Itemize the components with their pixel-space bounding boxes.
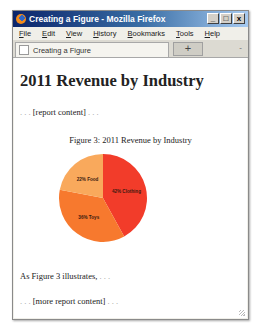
tab-bar: Creating a Figure + - [13, 40, 248, 58]
new-tab-button[interactable]: + [173, 42, 203, 56]
minimize-button[interactable]: _ [207, 13, 219, 24]
page-heading: 2011 Revenue by Industry [20, 71, 204, 91]
pie-label-clothing: 42% Clothing [112, 189, 141, 194]
resize-grip[interactable] [239, 310, 245, 316]
report-content-text: [report content] [33, 107, 86, 117]
title-bar[interactable]: Creating a Figure - Mozilla Firefox _ □ … [13, 11, 248, 27]
window-controls: _ □ x [207, 13, 245, 24]
ellipsis: . . . [86, 107, 99, 117]
report-content-paragraph: . . . [report content] . . . [20, 107, 99, 117]
menu-view[interactable]: View [66, 29, 82, 38]
menu-bar: File Edit View History Bookmarks Tools H… [13, 27, 248, 40]
menu-tools[interactable]: Tools [176, 29, 194, 38]
ellipsis: . . . [20, 296, 33, 306]
more-report-content-text: [more report content] [33, 296, 106, 306]
menu-history[interactable]: History [93, 29, 116, 38]
revenue-pie-chart: 42% Clothing36% Toys22% Food [58, 153, 148, 243]
tab-creating-a-figure[interactable]: Creating a Figure [15, 42, 169, 57]
ellipsis: . . . [20, 107, 33, 117]
figure-caption: Figure 3: 2011 Revenue by Industry [14, 135, 247, 145]
pie-label-toys: 36% Toys [78, 215, 99, 220]
firefox-logo-icon [16, 14, 26, 24]
ellipsis: . . . [97, 271, 110, 281]
menu-file[interactable]: File [19, 29, 31, 38]
figure-reference-paragraph: As Figure 3 illustrates, . . . [20, 271, 110, 281]
menu-bookmarks[interactable]: Bookmarks [128, 29, 166, 38]
tab-label: Creating a Figure [33, 46, 91, 55]
page-favicon-icon [19, 45, 29, 55]
page-content: 2011 Revenue by Industry . . . [report c… [14, 58, 247, 318]
window-title: Creating a Figure - Mozilla Firefox [29, 14, 166, 24]
figure-reference-text: As Figure 3 illustrates, [20, 271, 97, 281]
ellipsis: . . . [105, 296, 118, 306]
close-button[interactable]: x [233, 13, 245, 24]
pie-label-food: 22% Food [77, 177, 99, 182]
list-all-tabs-button[interactable]: - [239, 43, 242, 52]
maximize-button[interactable]: □ [220, 13, 232, 24]
browser-window: Creating a Figure - Mozilla Firefox _ □ … [12, 10, 249, 320]
menu-edit[interactable]: Edit [42, 29, 55, 38]
menu-help[interactable]: Help [205, 29, 220, 38]
more-report-content-paragraph: . . . [more report content] . . . [20, 296, 118, 306]
